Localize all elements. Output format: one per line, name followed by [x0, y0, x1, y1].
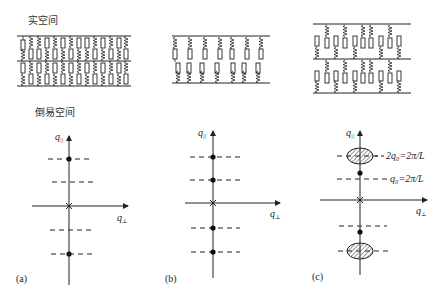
annotation-q0: q₀=2π/L: [390, 173, 424, 184]
axis-label-q-parallel: q||: [346, 127, 355, 139]
bragg-peak-dot: [66, 251, 71, 256]
panel-label-c: (c): [312, 271, 323, 283]
axis-label-q-perp: q⊥: [416, 205, 427, 217]
axis-label-q-parallel: q||: [55, 131, 64, 143]
bragg-peak-dot: [357, 229, 362, 234]
bragg-peak-dot: [210, 249, 215, 254]
axis-label-q-parallel: q||: [198, 127, 207, 139]
bragg-peak-dot: [210, 225, 215, 230]
panel-label-a: (a): [16, 273, 27, 285]
panel-b-real-space: [172, 36, 270, 83]
diffuse-scattering-ellipse: [347, 148, 373, 164]
annotation-2q0: 2q₀=2π/L: [386, 150, 425, 161]
bragg-peak-dot: [210, 154, 215, 159]
panel-b-reciprocal: q|| q⊥ (b): [165, 127, 281, 285]
real-space-title: 实空间: [28, 14, 58, 26]
panel-a-reciprocal: q|| q⊥ (a): [16, 131, 128, 285]
diffuse-scattering-ellipse: [347, 243, 373, 259]
diagram-canvas: 实空间 倒易空间: [0, 0, 441, 297]
axis-label-q-perp: q⊥: [270, 208, 281, 220]
bragg-peak-dot: [357, 170, 362, 175]
bragg-peak-dot: [66, 156, 71, 161]
panel-a-real-space: [17, 36, 131, 86]
bragg-peak-dot: [210, 177, 215, 182]
panel-c-real-space: [313, 24, 411, 93]
panel-label-b: (b): [165, 273, 177, 285]
reciprocal-space-title: 倒易空间: [35, 106, 75, 118]
panel-c-reciprocal: q|| q⊥ 2q₀=2π/L q₀=2π/L (c): [312, 127, 427, 283]
axis-label-q-perp: q⊥: [117, 212, 128, 224]
